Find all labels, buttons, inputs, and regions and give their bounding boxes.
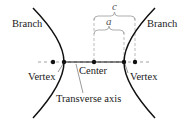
right-focus-point: [133, 60, 137, 64]
label-center: Center: [79, 65, 107, 76]
center-point: [92, 60, 96, 64]
left-vertex-point: [62, 60, 66, 64]
label-branch-right: Branch: [147, 18, 178, 29]
hyperbola-diagram: c a Branch Branch Vertex Vertex Center T…: [0, 0, 185, 127]
label-c: c: [112, 0, 117, 12]
label-vertex-left: Vertex: [28, 71, 56, 82]
label-a: a: [106, 15, 112, 27]
brace-a: [94, 26, 124, 34]
label-branch-left: Branch: [12, 18, 43, 29]
brace-c: [94, 12, 135, 20]
left-focus-point: [51, 60, 55, 64]
right-vertex-point: [122, 60, 126, 64]
label-vertex-right: Vertex: [130, 71, 158, 82]
label-transverse-axis: Transverse axis: [56, 93, 121, 104]
